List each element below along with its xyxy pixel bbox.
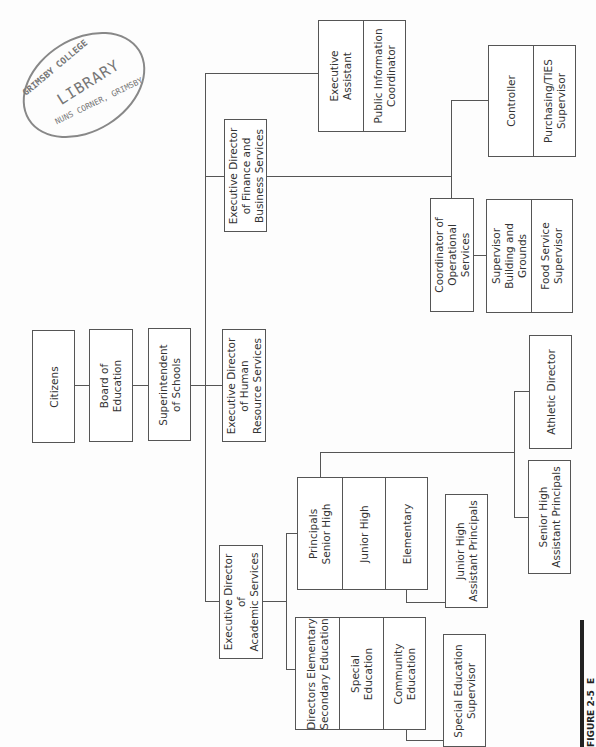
node-coordinator-operational: Coordinator of Operational Services (430, 198, 474, 312)
line-superintendent-hr (191, 385, 222, 386)
node-special-education: Special Education (339, 618, 383, 729)
node-controller: Controller (489, 46, 533, 156)
line-trunk-finance (205, 176, 224, 177)
node-label: Food Service Supervisor (539, 222, 565, 289)
line-academic-branch (263, 601, 286, 602)
node-principals-senior-high: Principals Senior High (298, 478, 342, 589)
node-label: Superintendent of Schools (157, 344, 183, 425)
node-food-service: Food Service Supervisor (531, 200, 572, 312)
line-board-superintendent (133, 385, 148, 386)
line-trunk-academic (205, 601, 219, 602)
line-trunk-exec-assistant (205, 73, 318, 74)
node-label: Public Information Coordinator (372, 28, 398, 123)
node-label: Citizens (47, 366, 60, 407)
line-principals-up (320, 452, 321, 477)
library-stamp: GRIMSBY COLLEGE LIBRARY NUNS CORNER, GRI… (3, 10, 165, 160)
node-label: Junior High Assistant Principals (454, 500, 480, 601)
node-label: Senior High Assistant Principals (537, 466, 563, 567)
node-principals-group: Principals Senior High Junior High Eleme… (297, 477, 428, 590)
line-community-down (406, 730, 407, 740)
node-label: Coordinator of Operational Services (433, 217, 472, 292)
node-citizens: Citizens (32, 330, 75, 443)
node-label: Board of Education (98, 359, 124, 411)
node-athletic-director: Athletic Director (529, 335, 572, 449)
node-supervisors-group: Supervisor Building and Grounds Food Ser… (486, 199, 573, 313)
node-label: Special Education (349, 647, 375, 699)
node-controller-group: Controller Purchasing/TIES Supervisor (488, 45, 576, 157)
line-coordinator-supervisors (474, 255, 486, 256)
node-public-info-coordinator: Public Information Coordinator (363, 21, 405, 131)
node-exec-director-academic: Executive Director of Academic Services (219, 545, 263, 659)
line-to-directors (286, 669, 295, 670)
node-community-education: Community Education (383, 618, 425, 729)
node-label: Purchasing/TIES Supervisor (542, 59, 568, 143)
node-label: Executive Director of Finance and Busine… (226, 127, 265, 224)
node-principals-junior-high: Junior High (342, 478, 385, 589)
node-label: Junior High (358, 505, 371, 563)
node-label: Elementary (400, 503, 413, 563)
line-to-athletic (514, 391, 529, 392)
line-to-principals (286, 533, 297, 534)
line-citizens-board (74, 385, 89, 386)
line-athletic-vertical (514, 391, 515, 518)
node-label: Executive Assistant (328, 50, 354, 101)
line-elementary-down (406, 590, 407, 602)
node-exec-director-finance: Executive Director of Finance and Busine… (224, 119, 267, 232)
line-finance-branch (267, 176, 451, 177)
node-label: Executive Director of Human Resource Ser… (225, 337, 264, 434)
figure-caption: FIGURE 2-5 E (586, 678, 596, 747)
node-label: Special Education Supervisor (452, 644, 478, 737)
line-to-sped-supervisor (406, 740, 443, 741)
line-main-trunk (205, 73, 206, 602)
line-principals-athletic (320, 452, 514, 453)
node-special-ed-supervisor: Special Education Supervisor (443, 634, 486, 747)
node-label: Executive Director of Academic Services (222, 553, 261, 652)
node-principals-elementary: Elementary (385, 478, 427, 589)
node-superintendent: Superintendent of Schools (148, 328, 191, 441)
node-exec-assistant: Executive Assistant (319, 21, 363, 131)
caption-rule (580, 620, 584, 747)
node-label: Directors Elementary Secondary Education (305, 618, 331, 729)
node-sr-asst-principals: Senior High Assistant Principals (528, 460, 571, 574)
node-purchasing-supervisor: Purchasing/TIES Supervisor (533, 46, 575, 156)
node-label: Controller (505, 75, 518, 127)
node-supervisor-building: Supervisor Building and Grounds (487, 200, 531, 312)
node-exec-assistant-group: Executive Assistant Public Information C… (318, 20, 406, 132)
line-finance-vertical (451, 100, 452, 198)
line-to-jr-asst (406, 602, 445, 603)
node-label: Community Education (392, 643, 418, 704)
line-academic-vertical (286, 533, 287, 669)
line-to-sr-asst (514, 517, 528, 518)
node-jr-asst-principals: Junior High Assistant Principals (445, 494, 488, 608)
node-label: Athletic Director (544, 349, 557, 434)
line-to-controller (451, 100, 488, 101)
node-label: Supervisor Building and Grounds (490, 223, 529, 289)
node-directors-group: Directors Elementary Secondary Education… (295, 617, 426, 730)
node-label: Principals Senior High (307, 503, 333, 564)
node-directors-elementary-secondary: Directors Elementary Secondary Education (296, 618, 339, 729)
node-exec-director-hr: Executive Director of Human Resource Ser… (222, 329, 266, 442)
node-board-of-education: Board of Education (89, 329, 133, 442)
